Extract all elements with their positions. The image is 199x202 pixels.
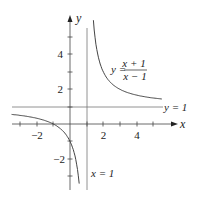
x-tick-label: 4	[134, 129, 140, 141]
y-tick-label: −2	[53, 153, 65, 165]
equation-label: y = x + 1 x − 1	[110, 57, 147, 82]
horizontal-asymptote-label: y = 1	[163, 101, 187, 113]
equation-denominator: x − 1	[122, 70, 146, 82]
x-axis: −2 2 4 x	[12, 117, 186, 141]
y-tick-label: 4	[58, 48, 64, 60]
equation-numerator: x + 1	[121, 57, 145, 69]
y-axis-label: y	[75, 11, 82, 25]
curve-left-branch	[12, 114, 80, 183]
x-tick-label: −2	[31, 129, 43, 141]
x-axis-label: x	[179, 117, 186, 131]
vertical-asymptote-label: x = 1	[90, 167, 114, 179]
rational-function-graph: −2 2 4 x 4 2 −2 y y = x + 1 x − 1 y = 1 …	[0, 0, 199, 202]
y-axis-arrow-icon	[68, 15, 73, 22]
y-axis: 4 2 −2 y	[53, 11, 82, 190]
x-tick-label: 2	[101, 129, 107, 141]
x-axis-arrow-icon	[171, 122, 178, 127]
y-tick-label: 2	[58, 83, 64, 95]
